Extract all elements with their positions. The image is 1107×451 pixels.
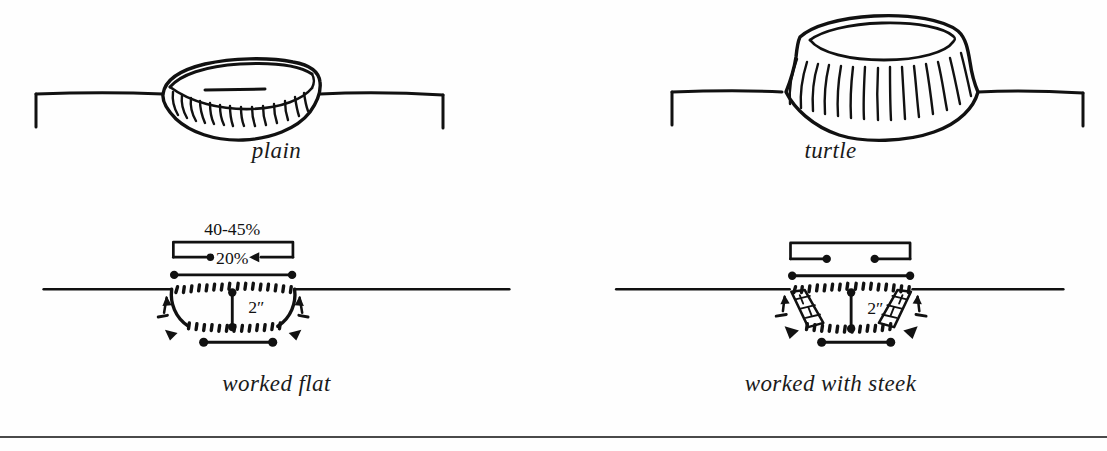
plain-inner-stitch-mark — [205, 89, 265, 90]
turtle-ribbing-strokes — [790, 53, 971, 120]
measurement-bracket-total — [791, 243, 911, 263]
plain-ribbing-strokes — [173, 92, 308, 126]
measure-line-depth — [847, 288, 855, 333]
steek-panel-right — [879, 290, 911, 327]
label-neck-depth: 2″ — [248, 297, 264, 317]
measure-line-base — [817, 338, 895, 347]
worked-steek-schematic: 2″ — [554, 205, 1107, 365]
measurement-dot-left — [207, 254, 214, 261]
bottom-rule-divider — [0, 436, 1107, 438]
panel-plain: plain — [0, 2, 553, 202]
caption-worked-flat: worked flat — [0, 371, 553, 397]
inward-arrow-right — [249, 252, 259, 262]
panel-worked-steek: 2″ worked with steek — [554, 205, 1107, 405]
caption-worked-steek: worked with steek — [554, 371, 1107, 397]
steek-panel-left — [791, 290, 823, 327]
neckline-curve-left — [171, 289, 188, 326]
bind-off-triangle-right — [289, 330, 302, 341]
bind-off-triangle-left — [785, 326, 799, 339]
measure-line-neck-width — [170, 271, 296, 279]
shaping-arrow-up-right — [913, 295, 922, 304]
caption-turtle: turtle — [554, 138, 1107, 164]
shoulder-line-right — [320, 93, 443, 128]
neckline-curve-right — [278, 289, 295, 326]
caption-plain: plain — [0, 138, 553, 164]
shaping-arrow-up-left — [780, 295, 789, 304]
shoulder-line-left — [36, 93, 163, 127]
measurement-dot-left — [823, 255, 831, 263]
label-total-width: 40-45% — [204, 219, 260, 239]
panel-turtle: turtle — [554, 2, 1107, 202]
measure-line-neck-width — [788, 272, 914, 280]
measurement-dot-right — [871, 255, 879, 263]
label-neck-depth: 2″ — [867, 298, 883, 318]
panel-worked-flat: 40-45% 20% — [0, 205, 553, 405]
bind-off-triangle-right — [903, 326, 917, 339]
figure-sheet: plain — [0, 0, 1107, 451]
worked-flat-schematic: 40-45% 20% — [0, 205, 553, 365]
turtle-collar-opening — [810, 23, 955, 60]
label-base-width: 20% — [216, 248, 249, 268]
shoulder-line-right — [978, 91, 1083, 126]
measure-line-base — [199, 338, 277, 347]
shaping-indicator-right — [289, 296, 308, 341]
measure-line-depth — [228, 288, 236, 331]
shoulder-line-left — [672, 91, 782, 125]
shaping-indicator-left — [158, 296, 177, 341]
bind-off-triangle-left — [165, 330, 178, 341]
